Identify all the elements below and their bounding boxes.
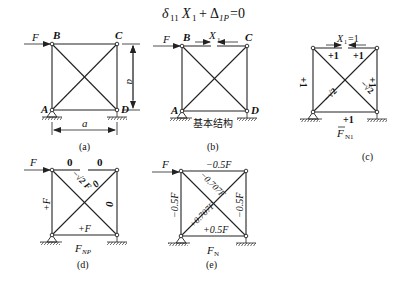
equals-zero: =0 bbox=[230, 6, 245, 21]
truss-diagram: δ 11 X 1 + Δ 1P =0 F B C A D bbox=[0, 0, 400, 288]
force-right: −0.5F bbox=[234, 192, 245, 218]
force-top-left: +1 bbox=[328, 50, 339, 61]
node-C bbox=[244, 169, 248, 173]
node-D bbox=[245, 109, 249, 113]
caption-d: (d) bbox=[77, 259, 89, 271]
ground-hatch bbox=[237, 118, 257, 121]
redundant-label: X bbox=[336, 33, 344, 44]
force-right: 0 bbox=[103, 201, 115, 207]
force-top-right: +1 bbox=[353, 50, 364, 61]
node-C bbox=[115, 42, 119, 46]
caption-b: (b) bbox=[207, 141, 219, 153]
force-diag-BD: −√2 F bbox=[70, 168, 93, 191]
node-A bbox=[180, 109, 184, 113]
force-label: F bbox=[31, 31, 39, 43]
caption-c: (c) bbox=[362, 151, 373, 163]
node-D bbox=[115, 233, 119, 237]
panel-a: F B C A D a a (a) bbox=[24, 29, 140, 153]
node-A bbox=[179, 234, 183, 238]
force-left: +1 bbox=[298, 77, 309, 88]
x-symbol: X bbox=[181, 6, 191, 21]
panel-d: F 0 0 +F 0 +F −√2 F 0 F NP (d) bbox=[24, 156, 127, 271]
plus-sign: + bbox=[199, 6, 207, 21]
Delta-subscript: 1P bbox=[219, 13, 230, 23]
delta-subscript: 11 bbox=[170, 13, 179, 23]
node-label-D: D bbox=[250, 104, 259, 116]
node-B bbox=[180, 44, 184, 48]
ground-hatch bbox=[236, 243, 256, 246]
ground-hatch bbox=[107, 242, 127, 245]
dim-label-horizontal: a bbox=[82, 117, 88, 129]
node-D bbox=[115, 108, 119, 112]
force-diag-BD: −0.707F bbox=[198, 169, 228, 199]
node-A bbox=[311, 110, 315, 114]
node-label-A: A bbox=[40, 103, 48, 115]
force-bottom: +1 bbox=[343, 114, 354, 125]
panel-c: X 1 =1 +1 +1 +1 +1 +1 −√2 −√2 F N1 (c) bbox=[298, 33, 387, 163]
diagram-title: F bbox=[206, 244, 214, 256]
force-top-left: 0 bbox=[67, 156, 73, 168]
delta-symbol: δ bbox=[162, 6, 169, 21]
caption-a: (a) bbox=[79, 141, 90, 153]
node-C bbox=[245, 44, 249, 48]
node-B bbox=[50, 42, 54, 46]
ground-hatch bbox=[170, 118, 190, 121]
node-B bbox=[311, 46, 315, 50]
panel-e: F −0.5F −0.5F −0.5F +0.5F −0.707F +0.707… bbox=[152, 158, 256, 271]
ground-hatch bbox=[42, 117, 62, 120]
ground-hatch bbox=[40, 242, 60, 245]
basic-structure-label: 基本结构 bbox=[193, 117, 233, 129]
ground-hatch bbox=[367, 119, 387, 122]
redundant-subscript: 1 bbox=[344, 39, 347, 45]
node-B bbox=[50, 168, 54, 172]
diagram-title-subscript: NP bbox=[81, 248, 92, 256]
panel-b: F X 1 B C A D 基本结构 (b) bbox=[153, 29, 259, 153]
redundant-subscript: 1 bbox=[217, 36, 221, 44]
node-label-B: B bbox=[182, 31, 190, 43]
node-label-C: C bbox=[115, 29, 123, 41]
diagram-title-subscript: N1 bbox=[345, 133, 354, 141]
cut-gap bbox=[342, 45, 348, 51]
node-D bbox=[375, 110, 379, 114]
diagram-title-subscript: N bbox=[214, 250, 219, 258]
node-B bbox=[179, 169, 183, 173]
redundant-label: X bbox=[208, 29, 217, 41]
caption-e: (e) bbox=[206, 259, 217, 271]
node-C bbox=[375, 46, 379, 50]
redundant-value: =1 bbox=[348, 33, 359, 44]
node-A bbox=[50, 108, 54, 112]
force-label: F bbox=[161, 158, 169, 170]
node-A bbox=[50, 233, 54, 237]
x-subscript: 1 bbox=[192, 13, 197, 23]
force-bottom: +0.5F bbox=[203, 224, 229, 235]
diagram-title: F bbox=[336, 127, 344, 139]
force-label: F bbox=[29, 156, 37, 168]
force-top: −0.5F bbox=[206, 159, 232, 170]
force-bottom: +F bbox=[78, 223, 92, 234]
ground-hatch bbox=[168, 243, 188, 246]
node-D bbox=[244, 234, 248, 238]
force-label: F bbox=[162, 33, 170, 45]
node-label-C: C bbox=[245, 31, 253, 43]
node-label-B: B bbox=[52, 29, 60, 41]
ground-hatch bbox=[107, 117, 127, 120]
ground-hatch bbox=[300, 119, 320, 122]
Delta-symbol: Δ bbox=[210, 6, 219, 21]
force-top-right: 0 bbox=[97, 156, 103, 168]
force-left: +F bbox=[41, 197, 52, 211]
force-left: −0.5F bbox=[169, 192, 180, 218]
dim-label-vertical: a bbox=[125, 79, 137, 85]
node-label-A: A bbox=[170, 104, 178, 116]
node-label-D: D bbox=[120, 103, 129, 115]
diagram-title: F bbox=[74, 242, 82, 254]
node-C bbox=[115, 168, 119, 172]
equation: δ 11 X 1 + Δ 1P =0 bbox=[162, 6, 245, 23]
